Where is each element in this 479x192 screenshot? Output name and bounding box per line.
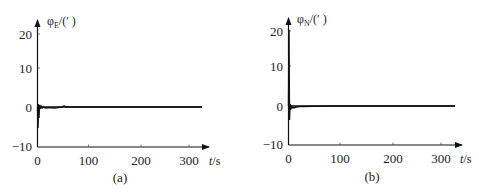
y-tick-label: −10 [12,139,32,154]
y-axis-title-a: φE/(′ ) [47,14,76,30]
x-tick-label: 0 [285,151,292,166]
x-axis-title-b: t/s [460,152,472,166]
x-tick-label: 100 [330,151,350,166]
x-tick-label: 100 [79,153,99,168]
y-tick-label: 0 [26,100,33,115]
x-tick-label: 200 [131,153,151,168]
panel-label-b: (b) [364,169,379,184]
panel-label-a: (a) [113,170,127,185]
y-tick-label: 0 [277,99,284,114]
y-tick-label: 10 [270,59,283,74]
y-tick-label: 10 [19,61,32,76]
y-tick-label: 20 [19,27,32,42]
figure: 20 10 0 −10 0 100 200 300 φE/(′ ) t/s (a… [0,0,479,192]
y-tick-label: 20 [270,24,283,39]
y-axis-title-b: φN/(′ ) [297,12,327,28]
chart-panel-b: 20 10 0 −10 0 100 200 300 φN/(′ ) t/s (b… [263,12,472,184]
x-tick-label: 300 [431,151,451,166]
y-tick-label: −10 [263,137,283,152]
x-axis-title-a: t/s [209,154,221,168]
x-tick-label: 0 [34,153,41,168]
x-tick-label: 300 [179,153,199,168]
x-tick-label: 200 [383,151,403,166]
chart-panel-a: 20 10 0 −10 0 100 200 300 φE/(′ ) t/s (a… [12,14,221,185]
